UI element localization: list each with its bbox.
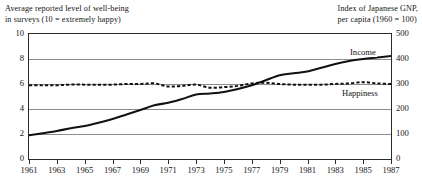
series-lines [29,34,391,159]
x-tick-mark [308,160,309,164]
right-tick-label: 400 [396,54,422,63]
x-tick-label: 1987 [374,165,408,175]
right-tick-label: 200 [396,104,422,113]
right-tick-label: 100 [396,129,422,138]
income-line [29,56,391,135]
right-tick-label: 500 [396,29,422,38]
left-tick-label: 8 [2,54,24,63]
left-tick-label: 6 [2,79,24,88]
left-tick-label: 10 [2,29,24,38]
x-tick-mark [196,160,197,164]
right-tick-label: 0 [396,154,422,163]
left-tick-label: 0 [2,154,24,163]
x-tick-mark [335,160,336,164]
x-tick-mark [280,160,281,164]
left-axis-caption: Average reported level of well-being in … [5,4,129,25]
plot-area [28,33,392,160]
happiness-line [29,82,391,88]
x-tick-mark [168,160,169,164]
chart-figure: Average reported level of well-being in … [0,0,422,188]
x-tick-mark [57,160,58,164]
right-axis-caption: Index of Japanese GNP, per capita (1960 … [338,4,418,25]
left-tick-label: 2 [2,129,24,138]
happiness-series-label: Happiness [341,88,379,98]
x-tick-mark [252,160,253,164]
x-tick-mark [224,160,225,164]
x-tick-mark [140,160,141,164]
income-series-label: Income [349,47,377,57]
x-tick-mark [391,160,392,164]
x-tick-mark [113,160,114,164]
x-tick-mark [363,160,364,164]
x-tick-mark [85,160,86,164]
right-tick-label: 300 [396,79,422,88]
x-tick-mark [29,160,30,164]
left-tick-label: 4 [2,104,24,113]
